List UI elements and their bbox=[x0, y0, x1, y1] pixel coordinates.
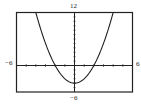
axes bbox=[17, 13, 133, 93]
y-max-label: 12 bbox=[70, 3, 77, 10]
y-min-label: −6 bbox=[70, 95, 77, 102]
graph-window bbox=[0, 0, 141, 109]
x-min-label: −6 bbox=[5, 60, 12, 67]
x-max-label: 6 bbox=[136, 61, 140, 68]
